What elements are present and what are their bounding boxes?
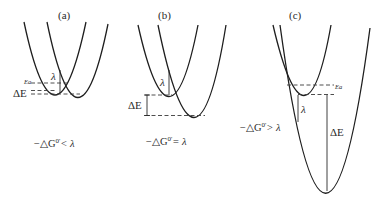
caption-relation: = λ <box>172 136 187 147</box>
svg-text:−△G0'= λ: −△G0'= λ <box>146 135 187 147</box>
panel-c-label: (c) <box>289 9 302 22</box>
svg-text:−△G0'> λ: −△G0'> λ <box>240 121 281 133</box>
lambda-label: λ <box>50 70 56 82</box>
marcus-theory-diagram: (a) λ Ea ΔE −△G0'< λ (b) <box>0 0 377 205</box>
caption-relation: > λ <box>266 122 281 133</box>
panel-a: (a) λ Ea ΔE −△G0'< λ <box>13 9 108 149</box>
delta-e-label: ΔE <box>13 87 27 99</box>
panel-b-label: (b) <box>158 9 171 22</box>
lambda-label: λ <box>300 103 306 115</box>
ea-label: Ea <box>23 78 31 85</box>
product-parabola <box>158 25 226 118</box>
caption-prefix: −△G <box>240 122 262 133</box>
caption-relation: < λ <box>60 138 75 149</box>
caption-prefix: −△G <box>146 136 168 147</box>
panel-b: (b) ΔE λ −△G0'= λ <box>128 9 226 147</box>
panel-a-caption: −△G0'< λ <box>34 137 75 149</box>
caption-prefix: −△G <box>34 138 56 149</box>
product-parabola <box>280 25 370 193</box>
delta-e-label: ΔE <box>330 126 344 138</box>
delta-e-label: ΔE <box>128 99 142 111</box>
lambda-label: λ <box>159 76 165 88</box>
product-parabola <box>47 22 108 98</box>
ea-label: Ea <box>334 83 342 90</box>
panel-b-caption: −△G0'= λ <box>146 135 187 147</box>
svg-text:−△G0'< λ: −△G0'< λ <box>34 137 75 149</box>
panel-c-caption: −△G0'> λ <box>240 121 281 133</box>
panel-c: (c) Ea λ ΔE −△G0'> λ <box>240 9 370 193</box>
panel-a-label: (a) <box>58 9 71 22</box>
reactant-parabola <box>24 22 86 95</box>
reactant-parabola <box>138 25 198 97</box>
